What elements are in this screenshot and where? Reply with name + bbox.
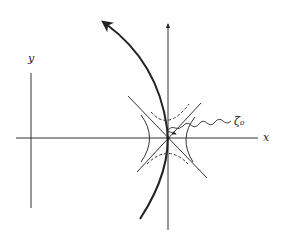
diagram-canvas: y x ζ₀: [0, 0, 281, 240]
zeta-zero-label: ζ₀: [234, 116, 244, 127]
y-axis-label: y: [28, 53, 34, 64]
saddle-point: [166, 136, 169, 139]
x-axis-label: x: [263, 132, 269, 143]
wavy-pointer-arrow: [167, 119, 231, 134]
steepest-path-curve: [106, 24, 168, 219]
hyperbola-right-branch: [186, 117, 195, 162]
hyperbola-top-dashed: [151, 104, 189, 120]
